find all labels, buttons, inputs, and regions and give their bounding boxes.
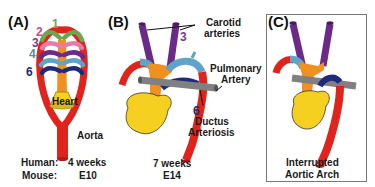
panel-b-graphic — [122, 22, 222, 163]
panel-a-letter: (A) — [8, 13, 29, 30]
aorta-trunk — [57, 125, 68, 159]
pulmonary-label-line2: Artery — [221, 74, 250, 85]
aorta-label: Aorta — [77, 130, 103, 141]
mouse-stage: E10 — [79, 170, 97, 181]
carotid-label-line1: Carotid — [206, 17, 241, 28]
ductus-label-line1: Ductus — [195, 116, 229, 127]
human-species: Human: — [21, 157, 58, 168]
panel-c-letter: (C) — [268, 13, 289, 30]
ductus-label-line2: Arteriosis — [188, 127, 235, 138]
carotid-number: 3 — [180, 30, 187, 44]
stage-b-line2: E14 — [163, 170, 181, 181]
panel-c-caption-line2: Aortic Arch — [285, 169, 339, 180]
human-stage: 4 weeks — [68, 157, 106, 168]
heart-label: Heart — [52, 96, 78, 107]
stage-b-line1: 7 weeks — [153, 158, 191, 169]
carotid-label-line2: arteries — [204, 28, 240, 39]
arch-number-6: 6 — [26, 65, 33, 79]
pulmonary-label-line1: Pulmonary — [210, 63, 262, 74]
panel-c-caption-line1: Interrupted — [286, 157, 339, 168]
mouse-species: Mouse: — [22, 170, 57, 181]
arch-number-4: 4 — [29, 47, 36, 61]
arch-number-1: 1 — [52, 17, 59, 31]
panel-b-letter: (B) — [108, 13, 129, 30]
